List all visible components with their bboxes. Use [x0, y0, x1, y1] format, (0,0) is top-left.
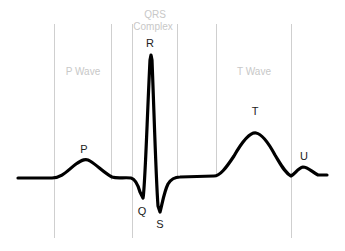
p-point-label: P [80, 143, 87, 155]
t-wave-label: T Wave [237, 66, 271, 77]
q-point-label: Q [138, 205, 147, 217]
qrs-label-line1: QRS [144, 9, 166, 20]
p-wave-label: P Wave [66, 66, 101, 77]
qrs-label-line2: Complex [133, 21, 172, 32]
ecg-trace [18, 55, 327, 212]
ecg-diagram: P Wave QRS Complex T Wave P Q R S T U [0, 0, 345, 251]
r-point-label: R [146, 37, 154, 49]
s-point-label: S [156, 218, 163, 230]
t-point-label: T [252, 105, 259, 117]
u-point-label: U [300, 150, 308, 162]
